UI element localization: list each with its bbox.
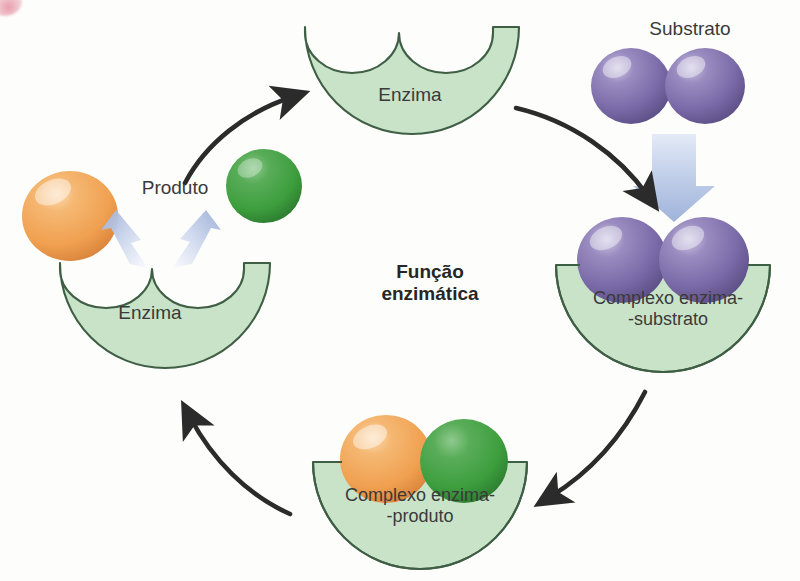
product-sphere-orange-bound [340,415,432,503]
product-sphere-green-bound [420,419,508,503]
enzyme-function-diagram: Enzima Enzima Substrato Produto Complexo… [0,0,800,581]
substrate-sphere-right [665,48,745,124]
blue-arrow-right [172,210,221,268]
cycle-arrow-bottom-to-left [190,417,290,514]
product-sphere-green-free [226,149,302,223]
product-release-arrows [101,210,221,268]
released-products [22,149,302,261]
bound-substrate-sphere-left [577,217,667,303]
bound-substrate-sphere-right [659,217,749,303]
enzyme-product-complex-shape [313,415,527,569]
substrate-sphere-left [591,48,671,124]
cycle-arrow-right-to-bottom [550,392,645,497]
enzyme-left-shape [60,263,270,368]
free-substrate [591,48,745,124]
substrate-binding-arrow [633,134,715,222]
enzyme-top-shape [305,27,519,134]
enzyme-substrate-complex-shape [556,217,770,372]
blue-arrow-down [633,134,715,222]
diagram-canvas [0,0,800,581]
